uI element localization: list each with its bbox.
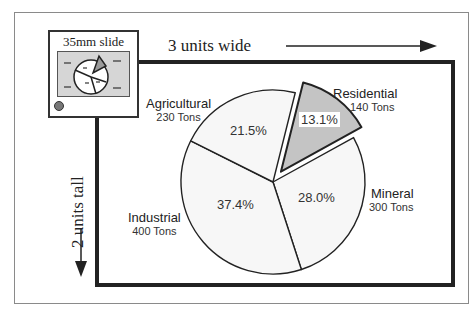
category-value: 140 Tons [347, 101, 397, 113]
category-name: Residential [333, 86, 397, 101]
label-agricultural: Agricultural 230 Tons [146, 96, 211, 123]
percent-label-mineral: 28.0% [298, 190, 335, 205]
percent-label-agricultural: 21.5% [230, 123, 267, 138]
category-value: 300 Tons [369, 201, 414, 213]
label-residential: Residential 140 Tons [333, 86, 397, 113]
slide-label: 35mm slide [50, 34, 137, 50]
category-value: 230 Tons [146, 111, 211, 123]
slide-screen [57, 51, 130, 97]
label-industrial: Industrial 400 Tons [128, 210, 181, 237]
percent-label-industrial: 37.4% [217, 197, 254, 212]
category-name: Agricultural [146, 96, 211, 111]
category-value: 400 Tons [128, 225, 181, 237]
percent-label-residential: 13.1% [299, 112, 340, 127]
slide-icon: 35mm slide [48, 30, 139, 118]
mini-pie-icon [58, 52, 131, 98]
category-name: Industrial [128, 210, 181, 225]
slide-corner-dot [54, 101, 64, 111]
category-name: Mineral [371, 186, 414, 201]
label-mineral: Mineral 300 Tons [369, 186, 414, 213]
